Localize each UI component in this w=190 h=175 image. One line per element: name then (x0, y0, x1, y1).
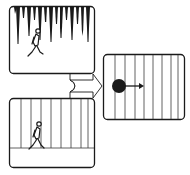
abstract-scene-panel (104, 55, 185, 120)
panel-frame (10, 99, 95, 168)
black-dot-icon (112, 79, 126, 93)
diagram-canvas (0, 0, 190, 175)
striped-scene-panel (10, 99, 95, 168)
forest-scene-panel (10, 7, 95, 74)
